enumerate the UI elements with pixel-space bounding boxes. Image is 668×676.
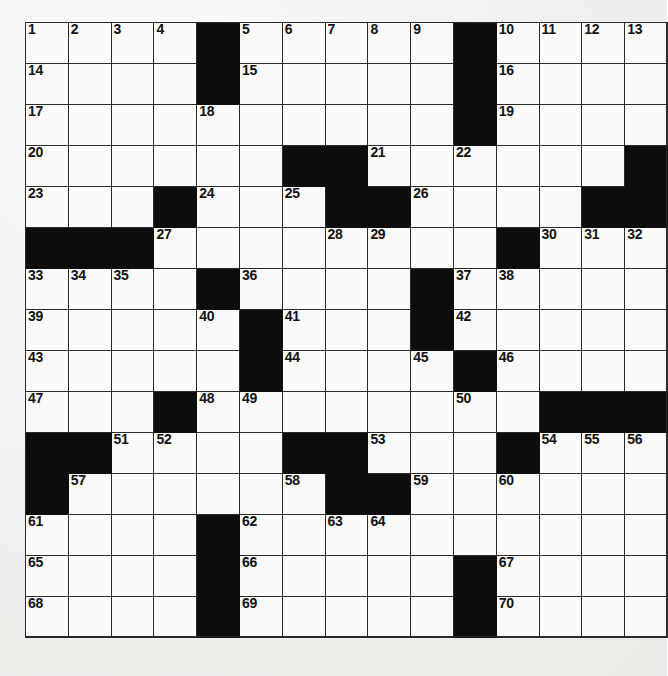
crossword-cell[interactable]: 23 xyxy=(26,187,69,228)
crossword-cell[interactable] xyxy=(282,515,325,556)
crossword-cell[interactable]: 15 xyxy=(239,64,282,105)
crossword-cell[interactable]: 18 xyxy=(197,105,240,146)
crossword-cell[interactable] xyxy=(368,310,411,351)
crossword-cell[interactable]: 61 xyxy=(26,515,69,556)
crossword-cell[interactable] xyxy=(197,474,240,515)
crossword-cell[interactable]: 52 xyxy=(154,433,197,474)
crossword-cell[interactable] xyxy=(625,105,668,146)
crossword-cell[interactable] xyxy=(325,351,368,392)
crossword-cell[interactable] xyxy=(111,474,154,515)
crossword-cell[interactable] xyxy=(539,556,582,597)
crossword-cell[interactable]: 45 xyxy=(411,351,454,392)
crossword-cell[interactable] xyxy=(154,64,197,105)
crossword-cell[interactable]: 26 xyxy=(411,187,454,228)
crossword-cell[interactable]: 9 xyxy=(411,23,454,64)
crossword-cell[interactable]: 54 xyxy=(539,433,582,474)
crossword-cell[interactable]: 33 xyxy=(26,269,69,310)
crossword-cell[interactable] xyxy=(154,310,197,351)
crossword-cell[interactable] xyxy=(496,310,539,351)
crossword-cell[interactable] xyxy=(453,187,496,228)
crossword-cell[interactable] xyxy=(68,556,111,597)
crossword-cell[interactable]: 21 xyxy=(368,146,411,187)
crossword-cell[interactable] xyxy=(582,556,625,597)
crossword-cell[interactable]: 57 xyxy=(68,474,111,515)
crossword-cell[interactable]: 59 xyxy=(411,474,454,515)
crossword-cell[interactable] xyxy=(68,187,111,228)
crossword-cell[interactable] xyxy=(411,105,454,146)
crossword-cell[interactable] xyxy=(197,433,240,474)
crossword-cell[interactable]: 34 xyxy=(68,269,111,310)
crossword-cell[interactable] xyxy=(282,597,325,638)
crossword-cell[interactable]: 7 xyxy=(325,23,368,64)
crossword-cell[interactable]: 50 xyxy=(453,392,496,433)
crossword-cell[interactable] xyxy=(453,433,496,474)
crossword-cell[interactable] xyxy=(68,597,111,638)
crossword-cell[interactable]: 1 xyxy=(26,23,69,64)
crossword-cell[interactable] xyxy=(239,228,282,269)
crossword-cell[interactable] xyxy=(197,351,240,392)
crossword-cell[interactable]: 44 xyxy=(282,351,325,392)
crossword-cell[interactable]: 37 xyxy=(453,269,496,310)
crossword-cell[interactable] xyxy=(582,515,625,556)
crossword-cell[interactable] xyxy=(368,64,411,105)
crossword-cell[interactable]: 40 xyxy=(197,310,240,351)
crossword-cell[interactable]: 29 xyxy=(368,228,411,269)
crossword-cell[interactable] xyxy=(625,597,668,638)
crossword-cell[interactable] xyxy=(539,64,582,105)
crossword-cell[interactable]: 14 xyxy=(26,64,69,105)
crossword-cell[interactable] xyxy=(411,515,454,556)
crossword-cell[interactable] xyxy=(368,351,411,392)
crossword-cell[interactable]: 48 xyxy=(197,392,240,433)
crossword-cell[interactable] xyxy=(111,392,154,433)
crossword-cell[interactable] xyxy=(539,105,582,146)
crossword-cell[interactable]: 10 xyxy=(496,23,539,64)
crossword-cell[interactable] xyxy=(111,351,154,392)
crossword-cell[interactable] xyxy=(111,597,154,638)
crossword-cell[interactable]: 38 xyxy=(496,269,539,310)
crossword-cell[interactable] xyxy=(111,146,154,187)
crossword-cell[interactable]: 41 xyxy=(282,310,325,351)
crossword-cell[interactable] xyxy=(539,269,582,310)
crossword-cell[interactable]: 69 xyxy=(239,597,282,638)
crossword-cell[interactable]: 70 xyxy=(496,597,539,638)
crossword-cell[interactable] xyxy=(282,105,325,146)
crossword-cell[interactable]: 49 xyxy=(239,392,282,433)
crossword-cell[interactable] xyxy=(68,351,111,392)
crossword-cell[interactable]: 31 xyxy=(582,228,625,269)
crossword-cell[interactable] xyxy=(325,597,368,638)
crossword-cell[interactable] xyxy=(239,187,282,228)
crossword-cell[interactable] xyxy=(582,269,625,310)
crossword-cell[interactable] xyxy=(325,310,368,351)
crossword-cell[interactable] xyxy=(154,556,197,597)
crossword-table[interactable]: 1234567891011121314151617181920212223242… xyxy=(25,22,668,638)
crossword-cell[interactable] xyxy=(154,105,197,146)
crossword-cell[interactable] xyxy=(325,64,368,105)
crossword-cell[interactable] xyxy=(154,515,197,556)
crossword-cell[interactable] xyxy=(582,64,625,105)
crossword-cell[interactable] xyxy=(582,310,625,351)
crossword-cell[interactable]: 20 xyxy=(26,146,69,187)
crossword-cell[interactable] xyxy=(582,474,625,515)
crossword-cell[interactable]: 3 xyxy=(111,23,154,64)
crossword-cell[interactable] xyxy=(111,187,154,228)
crossword-cell[interactable] xyxy=(625,310,668,351)
crossword-cell[interactable] xyxy=(453,228,496,269)
crossword-grid[interactable]: 1234567891011121314151617181920212223242… xyxy=(25,22,667,637)
crossword-cell[interactable]: 17 xyxy=(26,105,69,146)
crossword-cell[interactable] xyxy=(325,105,368,146)
crossword-cell[interactable]: 22 xyxy=(453,146,496,187)
crossword-cell[interactable] xyxy=(411,392,454,433)
crossword-cell[interactable] xyxy=(625,351,668,392)
crossword-cell[interactable] xyxy=(539,187,582,228)
crossword-cell[interactable] xyxy=(539,597,582,638)
crossword-cell[interactable] xyxy=(154,146,197,187)
crossword-cell[interactable] xyxy=(368,269,411,310)
crossword-cell[interactable] xyxy=(154,269,197,310)
crossword-cell[interactable]: 47 xyxy=(26,392,69,433)
crossword-cell[interactable]: 4 xyxy=(154,23,197,64)
crossword-cell[interactable]: 32 xyxy=(625,228,668,269)
crossword-cell[interactable] xyxy=(325,392,368,433)
crossword-cell[interactable] xyxy=(539,351,582,392)
crossword-cell[interactable]: 51 xyxy=(111,433,154,474)
crossword-cell[interactable]: 36 xyxy=(239,269,282,310)
